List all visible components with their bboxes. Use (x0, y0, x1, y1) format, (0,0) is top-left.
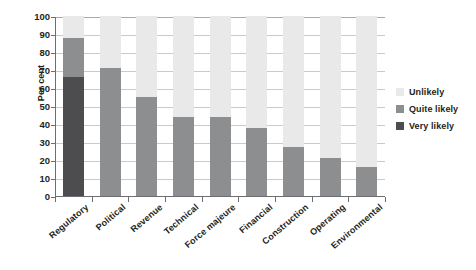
y-axis-tick-mark (51, 197, 55, 198)
y-axis-tick-label: 30 (26, 138, 50, 148)
bar-stack[interactable] (356, 17, 377, 196)
x-axis-tick-mark (238, 197, 239, 202)
y-axis-tick-label: 70 (26, 66, 50, 76)
legend-swatch-icon (396, 105, 404, 113)
y-axis-tick-label: 80 (26, 48, 50, 58)
y-axis-tick-label: 40 (26, 120, 50, 130)
bar-segment[interactable] (283, 147, 304, 196)
y-axis-tick-mark (51, 53, 55, 54)
y-axis-tick-mark (51, 161, 55, 162)
x-axis-tick-mark (128, 197, 129, 202)
chart-legend: UnlikelyQuite likelyVery likely (396, 85, 476, 136)
y-axis-tick-label: 10 (26, 174, 50, 184)
bar-stack[interactable] (173, 17, 194, 196)
chart-root: Per cent 1009080706050403020100 Regulato… (0, 0, 476, 270)
bar-segment[interactable] (356, 16, 377, 167)
bar-segment[interactable] (210, 16, 231, 117)
legend-label: Unlikely (409, 87, 444, 97)
bar-segment[interactable] (136, 16, 157, 97)
bar-segment[interactable] (63, 77, 84, 196)
bar-segment[interactable] (320, 16, 341, 158)
bar-segment[interactable] (173, 117, 194, 196)
y-axis-tick-mark (51, 89, 55, 90)
bar-stack[interactable] (246, 17, 267, 196)
y-axis-tick-label: 60 (26, 84, 50, 94)
x-axis-tick-mark (348, 197, 349, 202)
bar-segment[interactable] (173, 16, 194, 117)
legend-item[interactable]: Very likely (396, 119, 476, 133)
y-axis-tick-mark (51, 125, 55, 126)
bar-segment[interactable] (63, 16, 84, 38)
y-axis-tick-label: 90 (26, 30, 50, 40)
legend-item[interactable]: Quite likely (396, 102, 476, 116)
y-axis-tick-label: 100 (26, 12, 50, 22)
plot-area (55, 17, 385, 197)
bar-stack[interactable] (320, 17, 341, 196)
bar-segment[interactable] (320, 158, 341, 196)
x-axis-tick-mark (165, 197, 166, 202)
x-axis-tick-mark (385, 197, 386, 202)
bar-segment[interactable] (100, 16, 121, 68)
bar-stack[interactable] (136, 17, 157, 196)
y-axis-tick-mark (51, 107, 55, 108)
bar-segment[interactable] (63, 38, 84, 78)
bar-segment[interactable] (246, 128, 267, 196)
legend-swatch-icon (396, 122, 404, 130)
y-axis-tick-mark (51, 17, 55, 18)
x-axis-tick-mark (92, 197, 93, 202)
bar-segment[interactable] (246, 16, 267, 128)
x-axis-tick-mark (202, 197, 203, 202)
legend-swatch-icon (396, 88, 404, 96)
bar-segment[interactable] (356, 167, 377, 196)
bar-stack[interactable] (100, 17, 121, 196)
x-axis-label: Regulatory (48, 202, 91, 241)
bar-segment[interactable] (100, 68, 121, 196)
x-axis-tick-mark (275, 197, 276, 202)
y-axis-tick-mark (51, 71, 55, 72)
bar-stack[interactable] (210, 17, 231, 196)
bar-segment[interactable] (210, 117, 231, 196)
x-axis-tick-mark (312, 197, 313, 202)
bar-stack[interactable] (63, 17, 84, 196)
y-axis-tick-labels: 1009080706050403020100 (24, 0, 50, 270)
legend-label: Quite likely (409, 104, 458, 114)
y-axis-tick-label: 50 (26, 102, 50, 112)
x-axis-tick-mark (55, 197, 56, 202)
bar-segment[interactable] (283, 16, 304, 147)
x-axis-label: Political (94, 202, 128, 232)
y-axis-tick-mark (51, 179, 55, 180)
y-axis-tick-label: 20 (26, 156, 50, 166)
y-axis-tick-mark (51, 35, 55, 36)
y-axis-tick-label: 0 (26, 192, 50, 202)
legend-label: Very likely (409, 121, 454, 131)
y-axis-tick-mark (51, 143, 55, 144)
bar-segment[interactable] (136, 97, 157, 196)
legend-item[interactable]: Unlikely (396, 85, 476, 99)
bar-stack[interactable] (283, 17, 304, 196)
x-axis-line (55, 196, 385, 197)
x-axis-label: Revenue (128, 202, 164, 234)
